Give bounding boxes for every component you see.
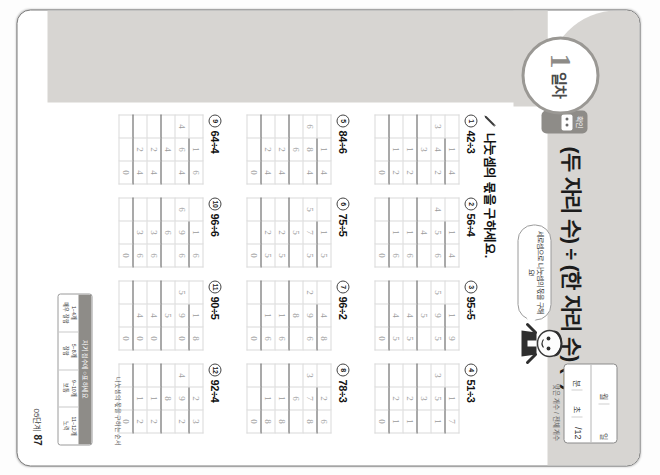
division-cell[interactable]: 1	[133, 387, 147, 410]
division-cell[interactable]: 2	[133, 138, 147, 161]
division-cell[interactable]	[389, 364, 403, 387]
division-cell[interactable]	[247, 198, 261, 221]
division-cell[interactable]: 0	[175, 327, 189, 350]
division-cell[interactable]	[119, 221, 133, 244]
division-cell[interactable]: 8	[275, 410, 289, 433]
datebox-day[interactable]: 일	[598, 404, 609, 443]
division-cell[interactable]: 6	[317, 410, 331, 433]
division-cell[interactable]: 8	[161, 387, 175, 410]
datebox-score[interactable]: /12	[572, 417, 582, 442]
division-cell[interactable]	[417, 281, 431, 304]
division-cell[interactable]	[417, 115, 431, 138]
division-cell[interactable]: 1	[275, 387, 289, 410]
division-cell[interactable]: 2	[261, 138, 275, 161]
division-cell[interactable]: 2	[275, 138, 289, 161]
division-cell[interactable]: 4	[133, 161, 147, 184]
division-cell[interactable]: 5	[275, 244, 289, 267]
division-cell[interactable]	[147, 281, 161, 304]
division-cell[interactable]	[161, 327, 175, 350]
division-cell[interactable]: 5	[417, 304, 431, 327]
divisor-cell[interactable]: 5	[303, 198, 317, 221]
division-cell[interactable]	[375, 281, 389, 304]
division-cell[interactable]	[317, 364, 331, 387]
division-cell[interactable]: 5	[431, 387, 445, 410]
division-cell[interactable]: 2	[133, 410, 147, 433]
division-cell[interactable]: 5	[289, 221, 303, 244]
divisor-cell[interactable]: 4	[175, 364, 189, 387]
division-cell[interactable]	[289, 198, 303, 221]
divisor-cell[interactable]: 3	[431, 364, 445, 387]
long-division-worksheet[interactable]: 16696636360	[118, 197, 203, 267]
division-cell[interactable]: 0	[133, 327, 147, 350]
division-cell[interactable]: 4	[133, 304, 147, 327]
division-cell[interactable]	[247, 138, 261, 161]
division-cell[interactable]: 2	[403, 161, 417, 184]
division-cell[interactable]: 3	[133, 221, 147, 244]
divisor-cell[interactable]: 5	[431, 281, 445, 304]
division-cell[interactable]: 1	[445, 138, 459, 161]
division-cell[interactable]	[247, 281, 261, 304]
division-cell[interactable]: 2	[175, 410, 189, 433]
division-cell[interactable]	[261, 364, 275, 387]
division-cell[interactable]: 9	[175, 304, 189, 327]
division-cell[interactable]	[375, 221, 389, 244]
division-cell[interactable]: 4	[389, 304, 403, 327]
division-cell[interactable]: 6	[189, 161, 203, 184]
division-cell[interactable]: 9	[175, 221, 189, 244]
division-cell[interactable]: 1	[431, 410, 445, 433]
division-cell[interactable]	[161, 198, 175, 221]
division-cell[interactable]	[403, 198, 417, 221]
division-cell[interactable]	[189, 198, 203, 221]
division-cell[interactable]: 1	[389, 221, 403, 244]
division-cell[interactable]	[375, 364, 389, 387]
division-cell[interactable]	[375, 387, 389, 410]
division-cell[interactable]: 4	[275, 161, 289, 184]
division-cell[interactable]: 4	[431, 138, 445, 161]
division-cell[interactable]: 6	[431, 244, 445, 267]
division-cell[interactable]	[375, 304, 389, 327]
division-cell[interactable]: 2	[403, 387, 417, 410]
division-cell[interactable]	[289, 410, 303, 433]
division-cell[interactable]: 0	[247, 410, 261, 433]
division-cell[interactable]: 8	[289, 304, 303, 327]
division-cell[interactable]: 2	[317, 387, 331, 410]
long-division-worksheet[interactable]: 15575525250	[246, 197, 331, 267]
division-cell[interactable]: 6	[275, 327, 289, 350]
division-cell[interactable]: 1	[189, 221, 203, 244]
datebox[interactable]: 월 일 분 초 /12	[563, 363, 617, 443]
division-cell[interactable]: 1	[317, 221, 331, 244]
division-cell[interactable]: 4	[445, 161, 459, 184]
division-cell[interactable]: 2	[431, 161, 445, 184]
division-cell[interactable]: 8	[303, 410, 317, 433]
division-cell[interactable]	[133, 115, 147, 138]
divisor-cell[interactable]: 6	[303, 115, 317, 138]
division-cell[interactable]	[317, 281, 331, 304]
division-cell[interactable]	[403, 364, 417, 387]
division-cell[interactable]: 1	[147, 387, 161, 410]
division-cell[interactable]	[389, 198, 403, 221]
division-cell[interactable]: 0	[375, 410, 389, 433]
division-cell[interactable]	[247, 387, 261, 410]
division-cell[interactable]: 0	[247, 244, 261, 267]
division-cell[interactable]: 0	[119, 161, 133, 184]
long-division-worksheet[interactable]: 23492812120	[118, 363, 203, 433]
division-cell[interactable]: 9	[175, 387, 189, 410]
division-cell[interactable]	[147, 115, 161, 138]
division-cell[interactable]: 1	[189, 138, 203, 161]
division-cell[interactable]: 5	[431, 327, 445, 350]
division-cell[interactable]: 2	[147, 138, 161, 161]
division-cell[interactable]: 4	[147, 304, 161, 327]
division-cell[interactable]: 6	[389, 244, 403, 267]
self-score-column[interactable]: 5~8개잘함	[58, 332, 78, 370]
division-cell[interactable]: 0	[247, 327, 261, 350]
division-cell[interactable]: 1	[389, 410, 403, 433]
division-cell[interactable]	[161, 410, 175, 433]
division-cell[interactable]	[133, 198, 147, 221]
division-cell[interactable]: 0	[375, 327, 389, 350]
division-cell[interactable]	[417, 244, 431, 267]
long-division-worksheet[interactable]: 16464424240	[118, 114, 203, 184]
division-cell[interactable]	[247, 221, 261, 244]
division-cell[interactable]: 1	[189, 304, 203, 327]
division-cell[interactable]: 0	[119, 327, 133, 350]
division-cell[interactable]: 5	[261, 244, 275, 267]
